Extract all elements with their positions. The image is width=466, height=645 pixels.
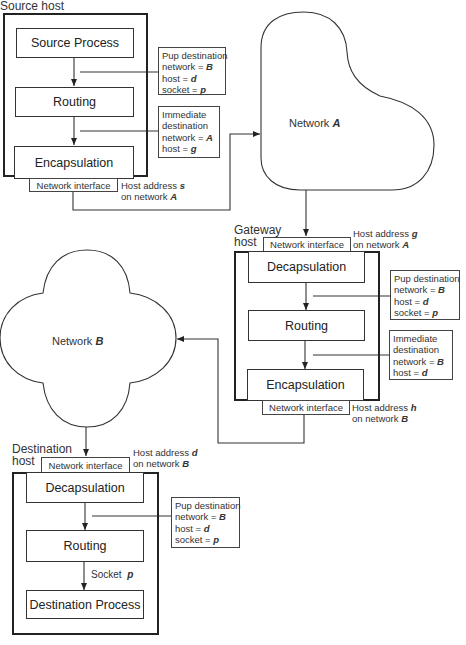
- destination-network-interface: Network interface: [41, 457, 130, 473]
- gateway-host-address-in: Host address g on network A: [353, 228, 417, 250]
- address-var: A: [170, 191, 177, 202]
- note-title: destination: [162, 120, 216, 131]
- note-value: p: [200, 84, 206, 95]
- note-value: d: [204, 523, 210, 534]
- destination-host-address: Host address d on network B: [133, 447, 197, 469]
- socket-text: Socket: [91, 569, 122, 580]
- gateway-routing-block: Routing: [248, 310, 365, 341]
- note-key: network =: [393, 356, 434, 367]
- gateway-network-interface-out: Network interface: [262, 400, 350, 415]
- source-host-address: Host address s on network A: [121, 180, 185, 202]
- address-text: Host address: [133, 447, 189, 458]
- note-value: d: [191, 73, 197, 84]
- destination-decapsulation-block: Decapsulation: [26, 472, 144, 503]
- network-var: B: [95, 335, 103, 347]
- address-text: Host address: [352, 402, 408, 413]
- note-value: B: [219, 511, 226, 522]
- address-text: on network: [133, 458, 179, 469]
- note-value: p: [432, 307, 438, 318]
- address-text: on network: [352, 413, 398, 424]
- source-network-interface: Network interface: [29, 178, 118, 192]
- destination-process-block: Destination Process: [26, 590, 144, 619]
- network-a-label: Network A: [289, 117, 340, 129]
- address-var: h: [411, 402, 417, 413]
- source-pup-destination-note: Pup destination network = B host = d soc…: [158, 47, 226, 95]
- note-value: p: [213, 534, 219, 545]
- destination-pup-destination-note: Pup destination network = B host = d soc…: [171, 497, 240, 548]
- network-b-label: Network B: [52, 335, 103, 347]
- gateway-decapsulation-block: Decapsulation: [248, 251, 365, 283]
- note-key: socket =: [162, 84, 198, 95]
- note-key: network =: [162, 61, 203, 72]
- address-var: d: [192, 447, 198, 458]
- note-title: destination: [393, 344, 449, 355]
- source-host-title: Source host: [0, 0, 64, 12]
- note-title: Pup destination: [175, 500, 236, 511]
- network-var: A: [332, 117, 340, 129]
- network-label-text: Network: [52, 335, 92, 347]
- source-routing-block: Routing: [15, 87, 134, 117]
- note-key: host =: [162, 73, 188, 84]
- address-text: Host address: [121, 180, 177, 191]
- address-text: on network: [353, 239, 399, 250]
- note-value: d: [422, 367, 428, 378]
- address-var: s: [180, 180, 185, 191]
- note-value: B: [206, 61, 213, 72]
- note-key: host =: [162, 143, 188, 154]
- note-key: host =: [393, 367, 419, 378]
- pup-routing-diagram: Source host Source Process Routing Encap…: [0, 0, 466, 645]
- socket-var: p: [127, 569, 133, 580]
- address-var: A: [402, 239, 409, 250]
- network-a-cloud: [261, 12, 434, 190]
- note-key: host =: [394, 296, 420, 307]
- source-immediate-destination-note: Immediate destination network = A host =…: [158, 106, 220, 158]
- note-title: Immediate: [393, 333, 449, 344]
- note-key: host =: [175, 523, 201, 534]
- network-label-text: Network: [289, 117, 329, 129]
- gateway-network-interface-in: Network interface: [263, 237, 351, 252]
- note-key: network =: [394, 284, 435, 295]
- address-var: g: [412, 228, 418, 239]
- source-encapsulation-block: Encapsulation: [14, 146, 134, 179]
- gateway-pup-destination-note: Pup destination network = B host = d soc…: [390, 270, 460, 320]
- note-value: B: [438, 284, 445, 295]
- note-key: network =: [175, 511, 216, 522]
- source-process-block: Source Process: [16, 28, 134, 58]
- note-key: network =: [162, 132, 203, 143]
- note-title: Immediate: [162, 109, 216, 120]
- address-text: Host address: [353, 228, 409, 239]
- note-key: socket =: [394, 307, 430, 318]
- note-value: d: [423, 296, 429, 307]
- address-var: B: [182, 458, 189, 469]
- socket-label: Socket p: [91, 569, 133, 580]
- note-value: B: [437, 356, 444, 367]
- gateway-encapsulation-block: Encapsulation: [247, 369, 364, 401]
- gateway-host-address-out: Host address h on network B: [352, 402, 416, 424]
- note-title: Pup destination: [394, 273, 456, 284]
- address-text: on network: [121, 191, 167, 202]
- note-value: A: [206, 132, 213, 143]
- gateway-immediate-destination-note: Immediate destination network = B host =…: [389, 330, 453, 380]
- address-var: B: [401, 413, 408, 424]
- note-key: socket =: [175, 534, 211, 545]
- note-title: Pup destination: [162, 50, 222, 61]
- destination-routing-block: Routing: [26, 530, 144, 562]
- note-value: g: [191, 143, 197, 154]
